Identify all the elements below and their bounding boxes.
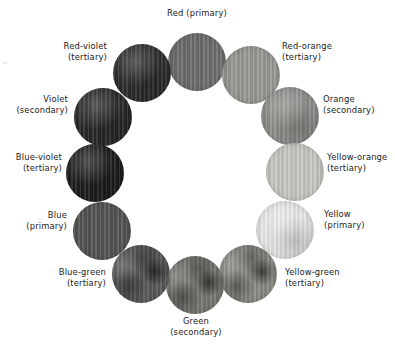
swatch-label-line: Red-orange — [282, 41, 386, 52]
swatch-violet[interactable] — [74, 88, 132, 146]
swatch-label-red-orange: Red-orange(tertiary) — [282, 41, 386, 63]
swatch-blue-violet[interactable] — [66, 144, 124, 202]
swatch-label-line: Red-violet — [8, 41, 107, 52]
swatch-yellow-orange[interactable] — [266, 143, 324, 201]
swatch-label-line: (primary) — [324, 220, 390, 231]
swatch-label-line: Blue-green — [8, 267, 106, 278]
swatch-label-line: Violet — [2, 94, 68, 105]
swatch-label-line: (tertiary) — [285, 278, 389, 289]
swatch-label-line: Green — [142, 316, 250, 327]
swatch-label-red: Red (primary) — [141, 8, 253, 19]
swatch-label-line: (tertiary) — [8, 52, 107, 63]
swatch-blue-green[interactable] — [112, 245, 170, 303]
swatch-orange[interactable] — [261, 87, 319, 145]
swatch-label-line: (tertiary) — [8, 278, 106, 289]
swatch-label-line: Red (primary) — [141, 8, 253, 19]
swatch-label-line: (tertiary) — [2, 163, 62, 174]
swatch-label-line: Yellow-green — [285, 267, 389, 278]
swatch-label-line: Blue — [3, 210, 67, 221]
swatch-yellow-green[interactable] — [219, 245, 277, 303]
swatch-green[interactable] — [166, 256, 224, 314]
swatch-label-line: (secondary) — [2, 105, 68, 116]
swatch-label-line: Orange — [323, 94, 389, 105]
swatch-label-line: Yellow — [324, 209, 390, 220]
swatch-label-yellow-green: Yellow-green(tertiary) — [285, 267, 389, 289]
color-wheel-figure: c Red (primary)Red-orange(tertiary)Orang… — [0, 0, 395, 344]
swatch-label-blue-violet: Blue-violet(tertiary) — [2, 152, 62, 174]
swatch-label-red-violet: Red-violet(tertiary) — [8, 41, 107, 63]
swatch-label-violet: Violet(secondary) — [2, 94, 68, 116]
swatch-label-green: Green(secondary) — [142, 316, 250, 338]
swatch-label-line: (tertiary) — [282, 52, 386, 63]
swatch-label-orange: Orange(secondary) — [323, 94, 389, 116]
swatch-label-line: Yellow-orange — [327, 152, 393, 163]
swatch-label-yellow-orange: Yellow-orange(tertiary) — [327, 152, 393, 174]
swatch-red-violet[interactable] — [113, 44, 171, 102]
swatch-label-line: (secondary) — [323, 105, 389, 116]
swatch-label-line: (tertiary) — [327, 163, 393, 174]
swatch-label-line: (secondary) — [142, 327, 250, 338]
swatch-label-blue: Blue(primary) — [3, 210, 67, 232]
swatch-label-blue-green: Blue-green(tertiary) — [8, 267, 106, 289]
swatch-red[interactable] — [168, 33, 226, 91]
swatch-label-yellow: Yellow(primary) — [324, 209, 390, 231]
swatch-label-line: (primary) — [3, 221, 67, 232]
swatch-label-line: Blue-violet — [2, 152, 62, 163]
swatch-blue[interactable] — [73, 202, 131, 260]
